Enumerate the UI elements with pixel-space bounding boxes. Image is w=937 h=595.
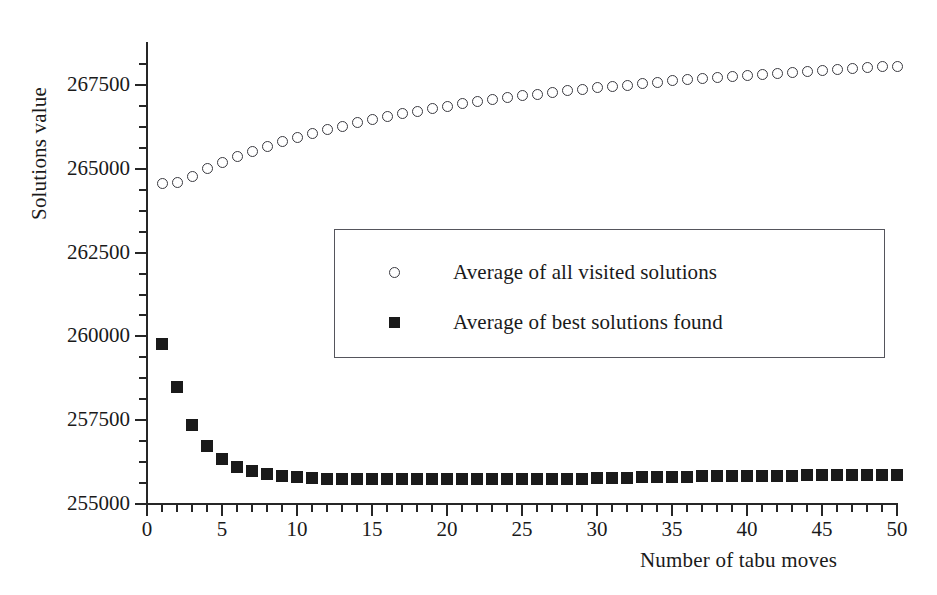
- legend-key-wrap: [335, 267, 453, 278]
- y-tick-minor: [139, 440, 148, 442]
- data-point: [486, 473, 498, 485]
- data-point: [426, 473, 438, 485]
- data-point: [877, 61, 888, 72]
- data-point: [232, 151, 243, 162]
- data-point: [502, 92, 513, 103]
- data-point: [277, 136, 288, 147]
- data-point: [516, 473, 528, 485]
- data-point: [171, 381, 183, 393]
- y-tick-major: [135, 168, 148, 170]
- data-point: [382, 111, 393, 122]
- data-point: [157, 178, 168, 189]
- data-point: [771, 470, 783, 482]
- x-tick-minor: [866, 505, 868, 512]
- x-tick-minor: [356, 505, 358, 512]
- y-tick-minor: [139, 461, 148, 463]
- data-point: [487, 94, 498, 105]
- data-point: [471, 473, 483, 485]
- x-tick-minor: [416, 505, 418, 512]
- data-point: [802, 66, 813, 77]
- x-tick-minor: [401, 505, 403, 512]
- x-tick-minor: [881, 505, 883, 512]
- data-point: [742, 70, 753, 81]
- data-point: [187, 171, 198, 182]
- data-point: [456, 473, 468, 485]
- data-point: [772, 68, 783, 79]
- x-tick-major: [671, 505, 673, 516]
- x-tick-minor: [206, 505, 208, 512]
- x-tick-minor: [641, 505, 643, 512]
- y-tick-label-wrap: 265000: [0, 158, 130, 180]
- x-tick-minor: [566, 505, 568, 512]
- x-tick-minor: [191, 505, 193, 512]
- data-point: [741, 470, 753, 482]
- x-tick-major: [746, 505, 748, 516]
- data-point: [156, 338, 168, 350]
- data-point: [621, 472, 633, 484]
- x-tick-minor: [311, 505, 313, 512]
- data-point: [726, 470, 738, 482]
- x-tick-minor: [176, 505, 178, 512]
- data-point: [846, 469, 858, 481]
- data-point: [546, 473, 558, 485]
- data-point: [757, 69, 768, 80]
- y-tick-label: 267500: [10, 74, 130, 95]
- data-point: [412, 106, 423, 117]
- y-tick-minor: [139, 210, 148, 212]
- data-point: [682, 74, 693, 85]
- legend-entry-label: Average of best solutions found: [453, 310, 723, 335]
- x-tick-minor: [476, 505, 478, 512]
- data-point: [306, 472, 318, 484]
- data-point: [817, 65, 828, 76]
- data-point: [862, 62, 873, 73]
- data-point: [291, 471, 303, 483]
- x-tick-minor: [836, 505, 838, 512]
- data-point: [547, 87, 558, 98]
- x-tick-label: 40: [717, 519, 777, 540]
- y-tick-label: 255000: [10, 493, 130, 514]
- y-tick-label: 262500: [10, 242, 130, 263]
- data-point: [712, 72, 723, 83]
- y-tick-label-wrap: 260000: [0, 325, 130, 347]
- data-point: [636, 471, 648, 483]
- y-tick-minor: [139, 63, 148, 65]
- y-tick-major: [135, 335, 148, 337]
- data-point: [666, 471, 678, 483]
- data-point: [352, 117, 363, 128]
- legend-entry-label: Average of all visited solutions: [453, 260, 717, 285]
- data-point: [396, 473, 408, 485]
- legend-key-wrap: [335, 317, 453, 328]
- x-tick-minor: [236, 505, 238, 512]
- y-tick-major: [135, 84, 148, 86]
- data-point: [847, 63, 858, 74]
- x-tick-minor: [851, 505, 853, 512]
- data-point: [336, 473, 348, 485]
- x-tick-minor: [791, 505, 793, 512]
- x-tick-major: [821, 505, 823, 516]
- x-tick-minor: [716, 505, 718, 512]
- data-point: [262, 141, 273, 152]
- y-tick-label-wrap: 267500: [0, 74, 130, 96]
- open-circle-icon: [389, 267, 400, 278]
- y-tick-minor: [139, 273, 148, 275]
- x-tick-minor: [761, 505, 763, 512]
- y-tick-label-wrap: 255000: [0, 493, 130, 515]
- y-tick-label: 257500: [10, 409, 130, 430]
- x-tick-major: [446, 505, 448, 516]
- data-point: [561, 473, 573, 485]
- data-point: [861, 469, 873, 481]
- data-point: [592, 82, 603, 93]
- chart-figure: Solutions value Number of tabu moves 255…: [0, 0, 937, 595]
- x-tick-minor: [341, 505, 343, 512]
- x-tick-label: 15: [342, 519, 402, 540]
- x-tick-minor: [626, 505, 628, 512]
- y-tick-minor: [139, 314, 148, 316]
- data-point: [637, 78, 648, 89]
- y-tick-minor: [139, 398, 148, 400]
- x-tick-major: [221, 505, 223, 516]
- x-tick-major: [146, 505, 148, 516]
- data-point: [652, 77, 663, 88]
- data-point: [172, 177, 183, 188]
- data-point: [531, 473, 543, 485]
- x-tick-label: 45: [792, 519, 852, 540]
